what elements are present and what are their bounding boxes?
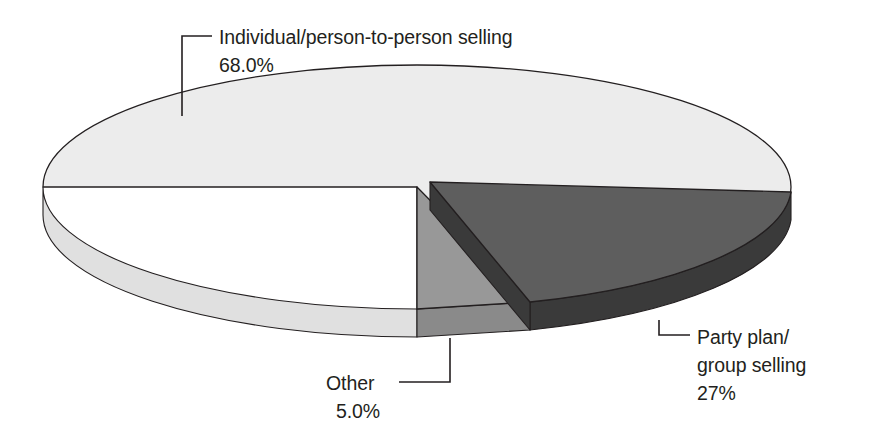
leader-line-party-plan xyxy=(659,320,690,335)
label-individual-value: 68.0% xyxy=(219,54,274,76)
label-individual-title: Individual/person-to-person selling xyxy=(219,26,513,48)
label-party-plan-value: 27% xyxy=(697,382,736,404)
slice-individual-side xyxy=(43,187,417,337)
label-other-title: Other xyxy=(326,372,375,394)
pie-chart-figure: Individual/person-to-person selling 68.0… xyxy=(0,0,874,448)
leader-line-other xyxy=(399,338,450,382)
label-party-plan-line1: Party plan/ xyxy=(697,326,790,348)
pie-chart-svg: Individual/person-to-person selling 68.0… xyxy=(0,0,874,448)
label-other-value: 5.0% xyxy=(336,400,380,422)
label-party-plan-line2: group selling xyxy=(697,354,806,376)
